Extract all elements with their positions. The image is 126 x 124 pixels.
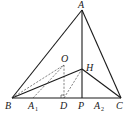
label-D: D	[59, 100, 68, 111]
label-O: O	[61, 53, 68, 64]
label-A2: A	[93, 100, 101, 111]
label-B: B	[5, 100, 11, 111]
label-H: H	[85, 62, 94, 73]
segment-AC	[82, 10, 121, 98]
segment-BO	[12, 65, 64, 98]
label-A1: A	[27, 100, 35, 111]
label-A2-sub: 2	[101, 106, 104, 112]
label-C: C	[116, 100, 123, 111]
segment-DH	[64, 69, 82, 98]
label-P: P	[77, 100, 84, 111]
label-A1-sub: 1	[35, 106, 38, 112]
geometry-figure: A B C P H O D A 1 A 2	[0, 0, 126, 124]
label-A: A	[77, 0, 85, 10]
segment-BH	[12, 69, 82, 98]
segment-AB	[12, 10, 82, 98]
triangle-diagram: A B C P H O D A 1 A 2	[0, 0, 126, 124]
